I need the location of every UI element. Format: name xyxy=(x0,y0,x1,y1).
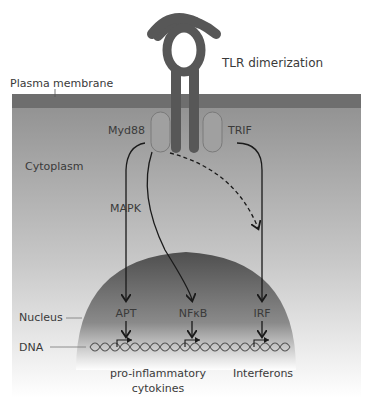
pro-inflammatory-label: pro-inflammatory xyxy=(110,368,206,379)
dna-label: DNA xyxy=(19,342,43,353)
interferons-label: Interferons xyxy=(233,368,293,379)
nucleus-label: Nucleus xyxy=(19,312,63,323)
cytoplasm-label: Cytoplasm xyxy=(25,161,83,172)
tlr-signaling-diagram: TLR dimerization Plasma membrane Myd88 T… xyxy=(0,0,367,398)
irf-label: IRF xyxy=(253,308,270,319)
plasma-membrane xyxy=(12,94,361,108)
mapk-label: MAPK xyxy=(110,203,141,214)
nfkb-label: NFκB xyxy=(179,308,208,319)
apt-label: APT xyxy=(116,308,137,319)
myd88-adaptor xyxy=(151,112,170,152)
myd88-label: Myd88 xyxy=(108,125,145,136)
trif-adaptor xyxy=(203,112,222,152)
plasma-membrane-label: Plasma membrane xyxy=(10,78,113,89)
tlr-dimerization-label: TLR dimerization xyxy=(222,57,323,69)
trif-label: TRIF xyxy=(228,125,252,136)
cytokines-label: cytokines xyxy=(132,383,185,394)
